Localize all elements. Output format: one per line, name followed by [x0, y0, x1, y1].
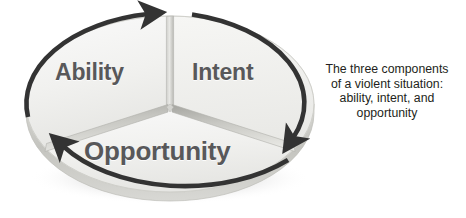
segment-label-opportunity: Opportunity [84, 136, 231, 167]
figure-caption: The three components of a violent situat… [316, 62, 458, 120]
caption-line-4: opportunity [316, 106, 458, 121]
caption-line-2: of a violent situation: [316, 77, 458, 92]
caption-line-1: The three components [316, 62, 458, 77]
caption-line-3: ability, intent, and [316, 91, 458, 106]
cycle-diagram: Ability Intent Opportunity [0, 0, 330, 218]
figure-root: Ability Intent Opportunity The three com… [0, 0, 466, 218]
cycle-diagram-svg [0, 0, 330, 218]
segment-label-ability: Ability [55, 59, 124, 86]
divider-top [166, 16, 173, 108]
segment-label-intent: Intent [192, 59, 253, 86]
